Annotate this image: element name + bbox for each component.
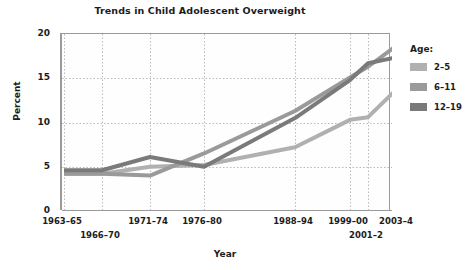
x-tick-label: 1988–94 [273,216,313,226]
chart-container: Trends in Child Adolescent Overweight Pe… [0,0,474,270]
x-tick-label: 1963–65 [42,216,82,226]
x-tick-label: 2003–4 [379,216,413,226]
x-tick-label: 2001–2 [349,230,383,240]
legend-title: Age: [410,44,474,54]
legend-swatch [410,103,427,111]
y-tick-label: 5 [0,161,50,171]
chart-title: Trends in Child Adolescent Overweight [0,5,400,16]
x-tick-label: 1966–70 [80,230,120,240]
legend-label: 2–5 [434,62,450,72]
legend-swatch [410,83,427,91]
legend-swatch [410,63,427,71]
y-tick-label: 15 [0,72,50,82]
series-lines [62,34,389,210]
legend-label: 12–19 [434,102,462,112]
x-tick-label: 1976–80 [182,216,222,226]
x-axis-tick-labels: 1963–651966–701971–741976–801988–941999–… [0,212,474,252]
legend-item[interactable]: 12–19 [410,101,474,112]
y-axis-tick-labels: 20151050 [0,0,56,220]
x-tick-label: 1971–74 [128,216,168,226]
x-tick-label: 1999–00 [328,216,368,226]
series-line [64,88,392,174]
legend-item[interactable]: 2–5 [410,61,474,72]
plot-area [60,33,390,210]
y-tick-label: 10 [0,117,50,127]
x-axis-title: Year [60,249,390,259]
legend-rows: 2–56–1112–19 [410,61,474,112]
legend: Age: 2–56–1112–19 [410,44,474,121]
series-line [64,57,392,170]
legend-label: 6–11 [434,82,456,92]
y-tick-label: 20 [0,28,50,38]
legend-item[interactable]: 6–11 [410,81,474,92]
